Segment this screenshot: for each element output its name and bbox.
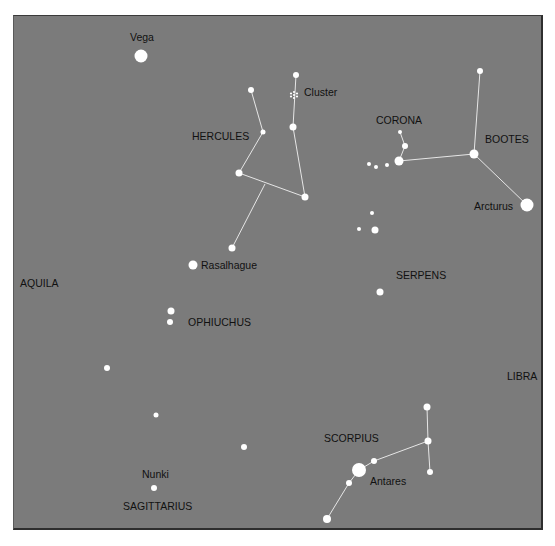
constellation-line [399,154,474,161]
star-name-label: Rasalhague [201,259,257,271]
star-name-label: Arcturus [474,200,513,212]
constellation-line [427,407,428,441]
star [302,194,309,201]
star [377,289,384,296]
star-arcturus [521,199,534,212]
constellation-label: SERPENS [396,269,446,281]
constellation-label: HERCULES [192,130,249,142]
constellation-line [474,71,480,154]
star-name-label: Vega [130,31,154,43]
constellation-line [239,173,305,197]
star-vega [135,50,148,63]
star [290,124,297,131]
cluster-icon [290,91,298,99]
star [167,319,173,325]
stars [104,50,534,524]
star [168,308,175,315]
constellation-label: BOOTES [485,133,529,145]
star [370,211,374,215]
star-rasalhague [189,261,198,270]
star-name-label: Nunki [142,468,169,480]
star [477,68,483,74]
constellation-label: CORONA [376,114,422,126]
star [236,170,243,177]
star [261,130,266,135]
star [470,150,479,159]
constellation-line [327,483,349,519]
star [374,165,378,169]
star-chart: HERCULESCORONABOOTESSERPENSAQUILAOPHIUCH… [0,0,555,546]
star [346,480,352,486]
star [293,72,299,78]
star [104,365,110,371]
constellation-label: SAGITTARIUS [123,500,192,512]
star-nunki [151,485,157,491]
labels: HERCULESCORONABOOTESSERPENSAQUILAOPHIUCH… [20,31,537,512]
star [402,143,408,149]
constellation-line [232,184,265,248]
star [323,515,331,523]
constellation-line [374,441,428,461]
star [385,163,389,167]
star [248,87,254,93]
star [398,130,402,134]
star [371,458,377,464]
star [395,157,404,166]
constellation-label: LIBRA [507,370,537,382]
constellation-label: OPHIUCHUS [188,316,251,328]
star [241,444,247,450]
star [424,404,431,411]
constellation-label: SCORPIUS [324,432,379,444]
star [357,227,361,231]
star-name-label: Cluster [304,86,338,98]
star-antares [352,463,366,477]
star-name-label: Antares [370,475,406,487]
star [367,162,371,166]
constellation-line [474,154,527,205]
constellation-line [251,90,263,132]
constellation-line [293,75,296,127]
star [372,227,379,234]
constellation-line [293,127,305,197]
star [427,469,433,475]
star [425,438,432,445]
star [229,245,236,252]
star [154,413,159,418]
constellation-line [428,441,430,472]
constellation-label: AQUILA [20,277,59,289]
